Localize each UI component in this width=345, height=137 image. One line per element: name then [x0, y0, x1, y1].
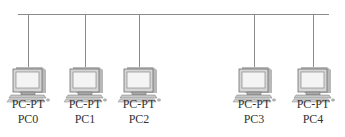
pc-node-pc4[interactable]: PC-PT PC4: [291, 15, 335, 135]
drop-cable: [254, 15, 255, 67]
device-name-label: PC0: [0, 113, 60, 125]
drop-cable: [139, 15, 140, 67]
pc-node-pc1[interactable]: PC-PT PC1: [63, 15, 107, 135]
pc-node-pc0[interactable]: PC-PT PC0: [6, 15, 50, 135]
pc-node-pc3[interactable]: PC-PT PC3: [232, 15, 276, 135]
device-name-label: PC4: [281, 113, 345, 125]
device-name-label: PC2: [107, 113, 171, 125]
device-type-label: PC-PT: [0, 98, 60, 110]
drop-cable: [85, 15, 86, 67]
drop-cable: [313, 15, 314, 67]
device-type-label: PC-PT: [281, 98, 345, 110]
pc-node-pc2[interactable]: PC-PT PC2: [117, 15, 161, 135]
drop-cable: [28, 15, 29, 67]
device-name-label: PC3: [222, 113, 286, 125]
device-type-label: PC-PT: [222, 98, 286, 110]
device-type-label: PC-PT: [107, 98, 171, 110]
